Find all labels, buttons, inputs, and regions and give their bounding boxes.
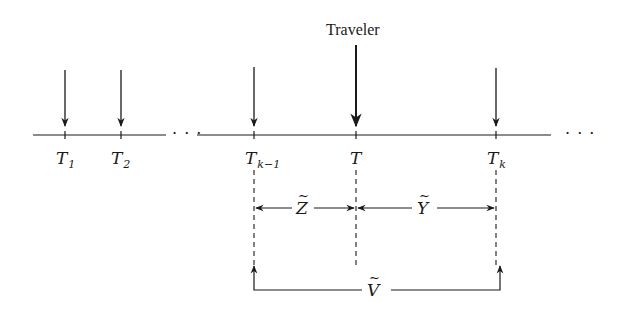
ellipsis-middle: · · · (172, 124, 202, 143)
label-t: T (350, 148, 361, 168)
diagram-graphics (0, 0, 617, 312)
label-t2: T2 (111, 148, 130, 168)
label-tk-minus-1: Tk−1 (245, 148, 280, 168)
renewal-process-diagram: Traveler · · · · · · T1 T2 Tk−1 T Tk Z Y… (0, 0, 617, 312)
v-bracket-right (391, 266, 500, 290)
label-t1: T1 (56, 148, 75, 168)
traveler-label: Traveler (326, 21, 380, 39)
v-bracket-left (254, 266, 362, 290)
label-z-tilde: Z (296, 198, 308, 218)
label-v-tilde: V (367, 280, 379, 300)
ellipsis-end: · · · (565, 124, 595, 143)
arrival-arrows (65, 67, 496, 126)
label-y-tilde: Y (417, 198, 428, 218)
label-tk: Tk (487, 148, 506, 168)
dashed-guides (254, 170, 496, 268)
